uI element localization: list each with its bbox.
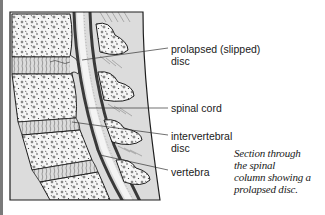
label-spinal-cord: spinal cord [171,102,222,114]
label-intervertebral-disc-line2: disc [171,142,232,154]
label-vertebra-line1: vertebra [171,166,210,178]
caption-line-4: prolapsed disc. [234,183,325,195]
label-prolapsed-disc-line1: prolapsed (slipped) [171,43,260,55]
vertebra-body-1 [12,14,72,57]
label-prolapsed-disc: prolapsed (slipped) disc [171,43,260,67]
figure-caption: Section through the spinal column showin… [234,147,325,195]
label-spinal-cord-line1: spinal cord [171,102,222,114]
caption-line-3: column showing a [234,171,325,183]
label-prolapsed-disc-line2: disc [171,55,260,67]
label-vertebra: vertebra [171,166,210,178]
disc-1 [12,57,75,74]
vertebra-body-2 [12,74,77,122]
label-intervertebral-disc-line1: intervertebral [171,130,232,142]
caption-line-1: Section through [234,147,325,159]
label-intervertebral-disc: intervertebral disc [171,130,232,154]
caption-line-2: the spinal [234,159,325,171]
